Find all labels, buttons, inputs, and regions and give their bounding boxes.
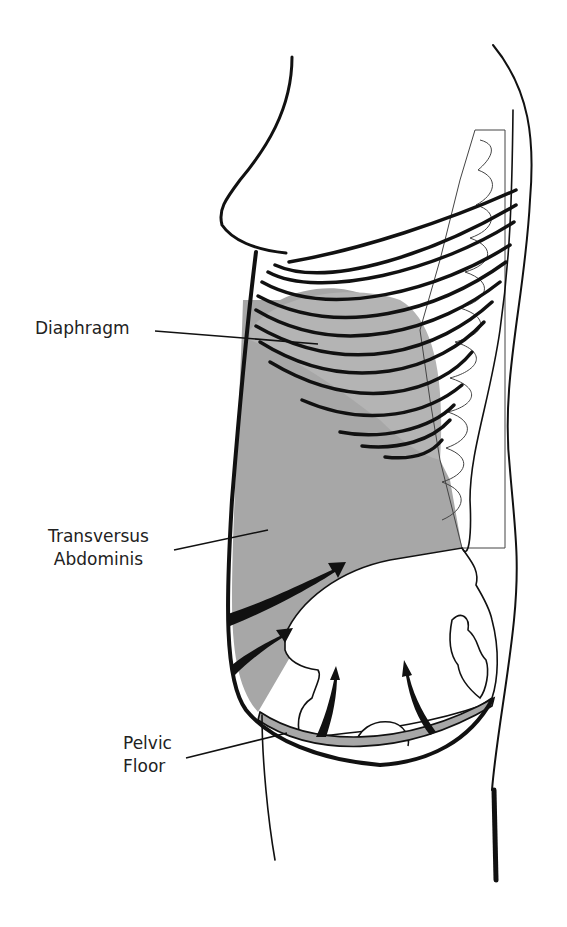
label-ta-line2: Abdominis	[48, 548, 149, 571]
label-ta-line1: Transversus	[48, 525, 149, 548]
torso-illustration	[0, 0, 567, 927]
label-pelvic-floor: Pelvic Floor	[123, 732, 172, 778]
label-diaphragm: Diaphragm	[35, 317, 130, 340]
core-muscles-diagram: Diaphragm Transversus Abdominis Pelvic F…	[0, 0, 567, 927]
label-pf-line2: Floor	[123, 755, 172, 778]
front-chest-line	[221, 57, 292, 253]
label-transversus-abdominis: Transversus Abdominis	[48, 525, 149, 571]
pelvic-floor-leader	[186, 733, 287, 758]
label-pf-line1: Pelvic	[123, 732, 172, 755]
back-leg-line	[494, 790, 496, 880]
label-diaphragm-text: Diaphragm	[35, 318, 130, 338]
